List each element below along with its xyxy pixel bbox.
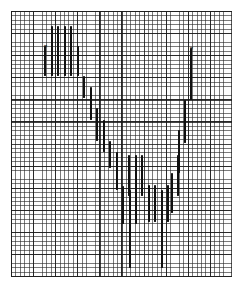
chart-canvas xyxy=(0,0,243,289)
graph-paper-grid xyxy=(11,11,232,277)
